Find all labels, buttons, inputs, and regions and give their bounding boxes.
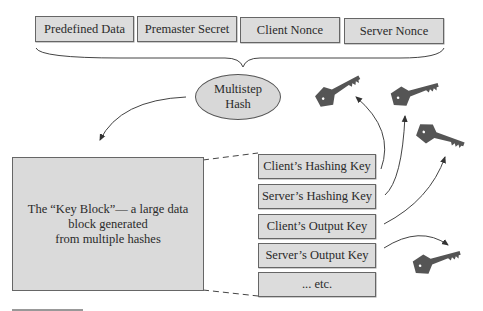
input-label: Client Nonce [257, 23, 323, 38]
key-icon [412, 120, 470, 160]
hash-label-line2: Hash [225, 97, 251, 112]
brace [36, 48, 444, 67]
input-server-nonce: Server Nonce [344, 18, 444, 44]
key-label: Client’s Hashing Key [263, 159, 371, 174]
arrow-client-output [384, 157, 445, 224]
hash-label-line1: Multistep [214, 82, 262, 97]
key-icon [388, 77, 444, 113]
key-icon [410, 243, 468, 283]
client-output-key: Client’s Output Key [258, 214, 376, 239]
key-block: The “Key Block”— a large data block gene… [12, 157, 204, 291]
multistep-hash-node: Multistep Hash [195, 74, 281, 120]
input-premaster-secret: Premaster Secret [137, 16, 237, 42]
key-block-line2: block generated [68, 217, 147, 232]
client-hashing-key: Client’s Hashing Key [258, 154, 376, 179]
key-icon [312, 72, 368, 112]
key-label: Server’s Hashing Key [262, 189, 372, 204]
key-label: ... etc. [302, 277, 332, 292]
arrow-server-hashing [385, 116, 405, 195]
input-label: Predefined Data [44, 22, 125, 37]
key-block-line1: The “Key Block”— a large data [28, 202, 188, 217]
arrow-hash-to-block [100, 97, 186, 140]
server-hashing-key: Server’s Hashing Key [258, 184, 376, 209]
input-predefined-data: Predefined Data [35, 16, 134, 42]
key-label: Server’s Output Key [265, 248, 368, 263]
key-label: Client’s Output Key [267, 219, 368, 234]
etc-key: ... etc. [258, 272, 376, 297]
input-label: Premaster Secret [145, 22, 229, 37]
server-output-key: Server’s Output Key [258, 243, 376, 268]
input-label: Server Nonce [360, 24, 428, 39]
key-block-line3: from multiple hashes [55, 232, 161, 247]
input-client-nonce: Client Nonce [240, 17, 340, 43]
